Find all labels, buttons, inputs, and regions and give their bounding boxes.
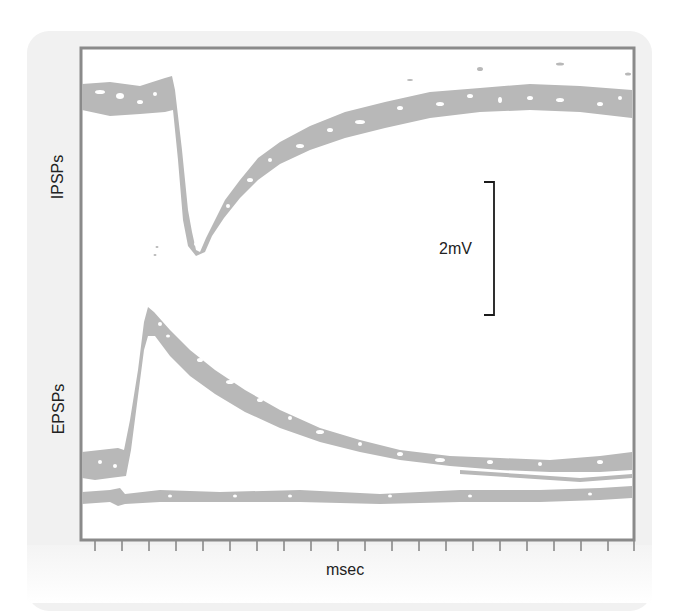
x-axis-ticks xyxy=(95,541,634,551)
x-axis-label: msec xyxy=(326,561,364,579)
y-label-ipsps: IPSPs xyxy=(49,155,67,199)
y-label-epsps: EPSPs xyxy=(50,384,68,435)
scale-bar-label: 2mV xyxy=(439,240,472,258)
